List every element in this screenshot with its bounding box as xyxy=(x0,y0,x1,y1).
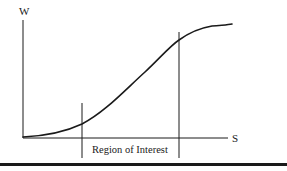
y-axis-label: W xyxy=(19,6,29,17)
bottom-rule xyxy=(0,163,287,166)
sigmoid-curve xyxy=(23,24,232,137)
region-of-interest-label: Region of Interest xyxy=(92,145,168,156)
x-axis-label: S xyxy=(232,133,238,144)
